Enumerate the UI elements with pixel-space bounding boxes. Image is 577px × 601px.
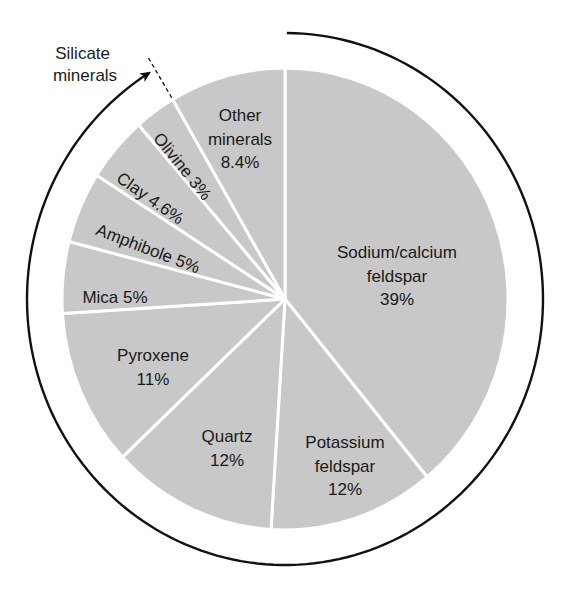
annotation-line-2: minerals	[53, 66, 117, 85]
slice-label-line: feldspar	[367, 267, 428, 286]
slice-label-line: Sodium/calcium	[337, 243, 457, 262]
slice-label-line: Pyroxene	[117, 346, 189, 365]
slice-label-line: 39%	[380, 290, 414, 309]
slice-label-line: 12%	[328, 480, 362, 499]
slice-label-line: 8.4%	[221, 153, 260, 172]
annotation-line-1: Silicate	[55, 44, 110, 63]
slice-label-line: minerals	[208, 130, 272, 149]
slice-label-line: Mica 5%	[82, 288, 147, 307]
silicate-boundary-dashed-line	[148, 57, 172, 98]
pie-chart: Sodium/calciumfeldspar39%Potassiumfeldsp…	[0, 0, 577, 601]
slice-label-line: Other	[219, 106, 262, 125]
silicate-minerals-label: Silicate minerals	[53, 44, 117, 85]
slice-label-line: feldspar	[315, 457, 376, 476]
slice-label-line: 12%	[210, 451, 244, 470]
silicate-annotation: Silicate minerals	[53, 44, 117, 85]
pie-chart-canvas: Sodium/calciumfeldspar39%Potassiumfeldsp…	[0, 0, 577, 601]
slice-label-line: 11%	[137, 370, 170, 389]
slice-label-line: Quartz	[201, 427, 252, 446]
slice-label-line: Potassium	[305, 433, 384, 452]
slice-label-mica: Mica 5%	[82, 288, 147, 307]
